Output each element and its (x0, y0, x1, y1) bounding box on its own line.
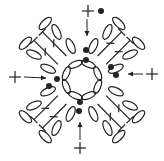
chain-oval-icon (61, 78, 72, 94)
crochet-diagram (0, 0, 164, 161)
chain-oval-icon (39, 62, 56, 75)
chain-oval-icon (50, 23, 63, 40)
chain-oval-icon (64, 37, 77, 54)
stitch-fans (17, 15, 146, 144)
chain-oval-icon (92, 65, 103, 81)
slip-stitch-dot-icon (76, 108, 82, 114)
chain-oval-icon (67, 59, 83, 70)
chain-oval-icon (121, 48, 138, 61)
arrow-head-icon (128, 72, 133, 77)
center-ring-chains (61, 59, 104, 102)
chain-oval-icon (101, 23, 114, 40)
chain-oval-icon (121, 99, 138, 112)
chain-oval-icon (101, 119, 114, 136)
chain-oval-icon (87, 37, 100, 54)
slip-stitch-dot-icon (83, 47, 89, 53)
crochet-chart (0, 0, 164, 161)
start-marker-bottom (74, 108, 86, 154)
arrow-head-icon (85, 31, 90, 36)
slip-stitch-dot-icon (98, 8, 104, 14)
slip-stitch-dot-icon (46, 83, 52, 89)
start-marker-right (113, 68, 158, 80)
chain-oval-icon (64, 105, 77, 122)
arrow-head-icon (78, 122, 83, 127)
chain-oval-icon (50, 119, 63, 136)
slip-stitch-dot-icon (77, 99, 83, 105)
chain-oval-icon (87, 105, 100, 122)
slip-stitch-dot-icon (83, 57, 89, 63)
slip-stitch-dot-icon (113, 72, 119, 78)
chain-oval-icon (107, 85, 124, 98)
slip-stitch-dot-icon (54, 76, 60, 82)
chain-oval-icon (80, 90, 96, 101)
start-markers (9, 5, 158, 154)
chain-oval-icon (25, 99, 42, 112)
chain-oval-icon (25, 48, 42, 61)
arrow-head-icon (41, 75, 46, 80)
slip-stitch-dot-icon (108, 64, 114, 70)
start-marker-top (82, 5, 94, 53)
